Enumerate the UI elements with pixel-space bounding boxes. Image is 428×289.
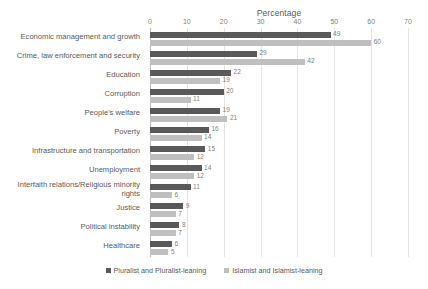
bar-value-label: 7 bbox=[178, 211, 182, 217]
category-label: People's welfare bbox=[0, 108, 140, 118]
legend-label: Islamist and Islamist-leaning bbox=[232, 266, 322, 275]
bar-value-label: 42 bbox=[307, 58, 314, 64]
bar bbox=[150, 116, 227, 122]
x-axis-title: Percentage bbox=[150, 8, 408, 18]
bar-value-label: 22 bbox=[234, 69, 241, 75]
category-label: Healthcare bbox=[0, 241, 140, 251]
legend-label: Pluralist and Pluralist-leaning bbox=[114, 266, 207, 275]
bar-group: 4960 bbox=[150, 32, 408, 47]
legend-item[interactable]: Islamist and Islamist-leaning bbox=[224, 266, 322, 275]
bar-group: 97 bbox=[150, 203, 408, 218]
x-tick-label: 70 bbox=[404, 18, 412, 25]
bar-value-label: 9 bbox=[186, 203, 190, 209]
bar-value-label: 16 bbox=[211, 126, 218, 132]
x-tick-label: 60 bbox=[367, 18, 375, 25]
category-label: Justice bbox=[0, 203, 140, 213]
category-label: Economic management and growth bbox=[0, 32, 140, 42]
bar-group: 2219 bbox=[150, 70, 408, 85]
category-label: Education bbox=[0, 70, 140, 80]
category-label: Infrastructure and transportation bbox=[0, 146, 140, 156]
bar-value-label: 29 bbox=[259, 50, 266, 56]
bar-group: 2942 bbox=[150, 51, 408, 66]
bar-value-label: 21 bbox=[230, 115, 237, 121]
bar bbox=[150, 108, 220, 114]
bar-value-label: 19 bbox=[223, 107, 230, 113]
bar bbox=[150, 173, 194, 179]
bar-value-label: 14 bbox=[204, 134, 211, 140]
category-label: Corruption bbox=[0, 89, 140, 99]
gridline bbox=[408, 28, 409, 257]
legend-item[interactable]: Pluralist and Pluralist-leaning bbox=[106, 266, 207, 275]
bar bbox=[150, 135, 202, 141]
bar-group: 2011 bbox=[150, 89, 408, 104]
bar-value-label: 11 bbox=[193, 184, 200, 190]
bar bbox=[150, 230, 176, 236]
bar-group: 1921 bbox=[150, 108, 408, 123]
bar bbox=[150, 165, 202, 171]
legend-swatch bbox=[106, 268, 111, 273]
category-label: Unemployment bbox=[0, 165, 140, 175]
chart-legend: Pluralist and Pluralist-leaningIslamist … bbox=[0, 266, 428, 275]
bar bbox=[150, 51, 257, 57]
bar-group: 116 bbox=[150, 184, 408, 199]
x-tick-label: 40 bbox=[294, 18, 302, 25]
bar bbox=[150, 89, 224, 95]
x-tick-label: 0 bbox=[148, 18, 152, 25]
bar bbox=[150, 32, 331, 38]
category-label: Crime, law enforcement and security bbox=[0, 51, 140, 61]
bar bbox=[150, 241, 172, 247]
category-label: Interfaith relations/Religious minority … bbox=[0, 180, 140, 199]
bar-value-label: 5 bbox=[171, 249, 175, 255]
bar-value-label: 12 bbox=[197, 173, 204, 179]
bar-group: 65 bbox=[150, 241, 408, 256]
x-tick-label: 20 bbox=[220, 18, 228, 25]
bar-value-label: 6 bbox=[175, 192, 179, 198]
bar bbox=[150, 203, 183, 209]
bar-group: 87 bbox=[150, 222, 408, 237]
x-tick-label: 10 bbox=[183, 18, 191, 25]
bar bbox=[150, 184, 191, 190]
category-label: Political instability bbox=[0, 222, 140, 232]
bar bbox=[150, 192, 172, 198]
x-tick-label: 50 bbox=[330, 18, 338, 25]
bar bbox=[150, 78, 220, 84]
bar bbox=[150, 222, 179, 228]
bar bbox=[150, 127, 209, 133]
x-tick-label: 30 bbox=[257, 18, 265, 25]
bar-group: 1412 bbox=[150, 165, 408, 180]
bar-value-label: 12 bbox=[197, 154, 204, 160]
bar-value-label: 14 bbox=[204, 165, 211, 171]
bar bbox=[150, 211, 176, 217]
bar-value-label: 15 bbox=[208, 146, 215, 152]
bar-value-label: 8 bbox=[182, 222, 186, 228]
bar-chart: Percentage 010203040506070 Economic mana… bbox=[0, 0, 428, 289]
bar-value-label: 7 bbox=[178, 230, 182, 236]
bar-value-label: 49 bbox=[333, 31, 340, 37]
bar-value-label: 6 bbox=[175, 241, 179, 247]
category-axis-labels: Economic management and growthCrime, law… bbox=[0, 28, 146, 257]
bar-value-label: 60 bbox=[374, 39, 381, 45]
category-label: Poverty bbox=[0, 127, 140, 137]
plot-area: 4960294222192011192116141512141211697876… bbox=[150, 28, 408, 257]
bar bbox=[150, 40, 371, 46]
bar bbox=[150, 97, 191, 103]
bar-group: 1614 bbox=[150, 127, 408, 142]
bar-group: 1512 bbox=[150, 146, 408, 161]
bar-value-label: 11 bbox=[193, 96, 200, 102]
bar bbox=[150, 154, 194, 160]
bar bbox=[150, 59, 305, 65]
x-axis-tick-labels: 010203040506070 bbox=[150, 18, 408, 28]
bar bbox=[150, 249, 168, 255]
legend-swatch bbox=[224, 268, 229, 273]
bar bbox=[150, 70, 231, 76]
bar-value-label: 19 bbox=[223, 77, 230, 83]
bar-value-label: 20 bbox=[226, 88, 233, 94]
bar bbox=[150, 146, 205, 152]
